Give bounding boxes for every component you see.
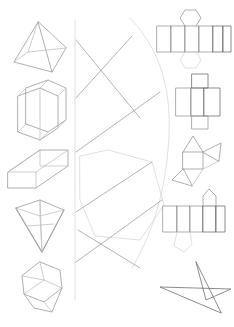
cuboid-net (176, 74, 220, 129)
oblique-prism (22, 262, 62, 312)
triangular-prism-net (172, 136, 221, 186)
worksheet-canvas (0, 0, 234, 327)
inverted-pyramid (16, 200, 64, 252)
hexagonal-prism (18, 80, 66, 140)
pentagonal-prism-net (163, 189, 225, 252)
hexagonal-prism-net (157, 10, 231, 68)
worksheet-page (0, 0, 234, 327)
five-pointed-star (160, 262, 231, 313)
square-pyramid (14, 22, 66, 72)
rectangular-prism (8, 150, 68, 188)
